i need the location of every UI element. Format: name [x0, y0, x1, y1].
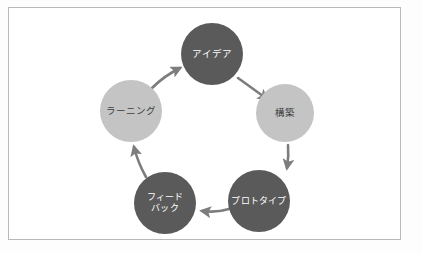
- cycle-diagram: [0, 0, 422, 253]
- diagram-canvas: アイデア 構築 プロトタイプ フィード バック ラーニング: [0, 0, 422, 253]
- node-build[interactable]: [256, 84, 314, 142]
- node-group: [100, 23, 314, 234]
- arrow-feedback-to-learning: [134, 147, 146, 177]
- node-idea[interactable]: [181, 23, 243, 85]
- node-feedback[interactable]: [134, 172, 196, 234]
- node-learning[interactable]: [100, 80, 162, 142]
- arrow-prototype-to-feedback: [202, 209, 229, 212]
- arrow-build-to-prototype: [287, 145, 288, 168]
- arrow-learning-to-idea: [152, 68, 180, 88]
- node-prototype[interactable]: [228, 170, 290, 232]
